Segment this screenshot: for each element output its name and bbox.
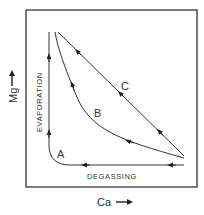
degassing-label: DEGASSING — [87, 172, 137, 181]
x-axis-label: Ca — [97, 196, 112, 208]
curve-label-c: C — [121, 80, 129, 92]
curve-a — [49, 32, 184, 165]
x-axis-arrow-icon — [116, 199, 133, 205]
y-axis-arrow-icon — [9, 70, 15, 86]
evaporation-label: EVAPORATION — [35, 72, 44, 132]
plot-frame — [26, 10, 197, 187]
y-axis-label: Mg — [7, 88, 19, 103]
curve-label-b: B — [94, 107, 101, 119]
curve-label-a: A — [57, 148, 65, 160]
curve-b — [55, 32, 184, 158]
diagram-canvas: A B C EVAPORATION DEGASSING Mg Ca — [0, 0, 204, 215]
